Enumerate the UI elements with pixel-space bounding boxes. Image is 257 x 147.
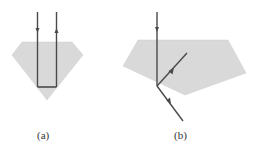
- panel-a: (a): [12, 12, 83, 142]
- arrow-up-icon: [55, 28, 59, 33]
- pentagon-shape: [123, 40, 246, 95]
- arrow-down-right-icon: [167, 98, 172, 105]
- panel-b: (b): [123, 12, 246, 142]
- diagram-canvas: (a) (b): [0, 0, 257, 147]
- diamond-shape: [12, 42, 83, 100]
- panel-b-label: (b): [174, 129, 187, 142]
- arrow-down-icon: [36, 28, 40, 33]
- arrow-down-icon: [155, 27, 159, 32]
- panel-a-label: (a): [37, 129, 50, 142]
